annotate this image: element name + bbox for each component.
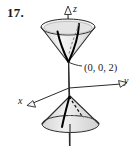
- problem-number: 17.: [7, 6, 24, 19]
- apex-point-label: (0, 0, 2): [84, 63, 117, 74]
- axis-label-z: z: [73, 4, 77, 14]
- apex-leader-line: [69, 63, 82, 67]
- axis-label-y: y: [124, 76, 128, 86]
- figure-container: 17. z y x (0, 0, 2): [0, 0, 137, 150]
- double-cone-diagram: [0, 0, 137, 150]
- axis-y: [69, 81, 127, 88]
- axis-label-x: x: [18, 96, 22, 106]
- upper-cone-surface: [41, 19, 95, 62]
